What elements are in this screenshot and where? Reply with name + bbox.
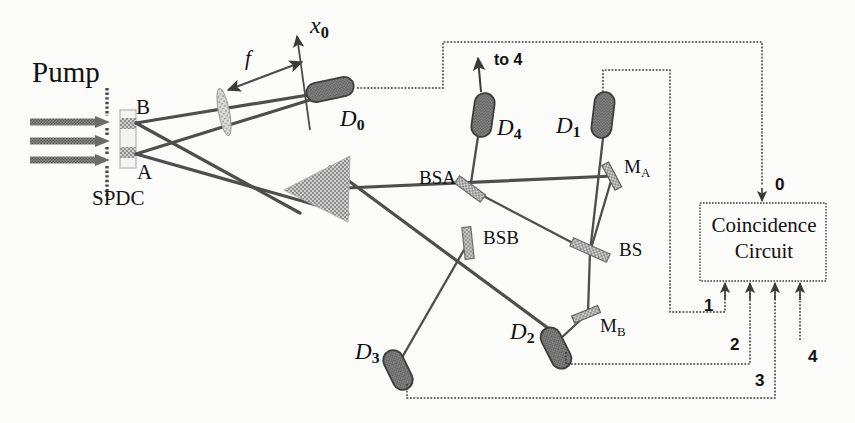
region-a-label: A: [137, 162, 152, 183]
beam-paths: [136, 89, 613, 361]
beam-prism-to-bsa: [346, 176, 613, 188]
d3-symbol: D: [355, 339, 372, 364]
d2-symbol: D: [510, 319, 527, 344]
scan-axis-subscript: 0: [321, 23, 329, 42]
channel-2-label: 2: [730, 336, 739, 353]
bsb-label: BSB: [483, 228, 519, 247]
beam-prism-to-bsb: [330, 167, 560, 337]
scan-axis-x0: [297, 36, 310, 130]
focal-length-arrow: [228, 62, 302, 90]
d0-subscript: 0: [357, 116, 365, 133]
to-4-arrow: [478, 58, 481, 92]
coincidence-line-2: Circuit: [710, 239, 818, 265]
mb-symbol: M: [600, 315, 617, 336]
to-4-label: to 4: [494, 52, 522, 68]
scan-axis-symbol: x: [310, 12, 321, 38]
mb-subscript: B: [617, 324, 626, 339]
bs-label: BS: [619, 240, 642, 259]
mirror-ma-label: MA: [624, 157, 650, 180]
d3-subscript: 3: [372, 349, 380, 366]
channel-4-label: 4: [808, 348, 817, 365]
ma-subscript: A: [641, 165, 650, 180]
detector-d3: [380, 347, 416, 394]
beam-bsb-to-d3: [400, 243, 468, 361]
mirror-mb-label: MB: [600, 316, 626, 339]
beam-b-to-prism: [136, 123, 300, 213]
spdc-region-a: [120, 147, 136, 158]
beamsplitter-bsb: [462, 227, 474, 260]
detector-d0-label: D0: [340, 107, 364, 133]
spdc-label: SPDC: [92, 188, 145, 209]
d4-subscript: 4: [514, 125, 522, 142]
region-b-label: B: [136, 97, 150, 118]
optics-diagram: [0, 0, 855, 423]
d4-symbol: D: [497, 115, 514, 140]
prism: [284, 156, 350, 222]
spdc-crystal: [120, 110, 136, 168]
channel-1-label: 1: [704, 297, 713, 314]
coincidence-circuit-label: Coincidence Circuit: [710, 213, 818, 264]
detector-d4-label: D4: [497, 116, 521, 142]
channel-0-label: 0: [775, 176, 784, 193]
pump-beam-arrows: [30, 116, 110, 166]
mirror-mb: [572, 306, 601, 323]
wire-d2: [566, 292, 750, 364]
figure-canvas: Pump SPDC B A f x0 D0 to 4 D4 D1 BSA BSB…: [0, 0, 855, 423]
detector-d3-label: D3: [355, 340, 379, 366]
detector-d0: [305, 75, 356, 104]
pump-label: Pump: [32, 58, 100, 87]
spdc-region-b: [120, 118, 136, 129]
detector-d2-label: D2: [510, 320, 534, 346]
detector-d4: [470, 92, 496, 138]
bsa-label: BSA: [419, 168, 456, 187]
ma-symbol: M: [624, 156, 641, 177]
detector-d1-label: D1: [556, 114, 580, 140]
detector-d1: [590, 91, 615, 139]
beamsplitter-bsa: [454, 176, 485, 202]
d1-subscript: 1: [573, 123, 581, 140]
d2-subscript: 2: [527, 329, 535, 346]
focal-length-label: f: [245, 48, 251, 69]
channel-3-label: 3: [755, 372, 764, 389]
d0-symbol: D: [340, 106, 357, 131]
d1-symbol: D: [556, 113, 573, 138]
beam-bs-to-d1: [590, 138, 603, 252]
coincidence-line-1: Coincidence: [710, 213, 818, 239]
beam-bs-to-mb: [588, 252, 590, 312]
scan-axis-label: x0: [310, 13, 329, 41]
